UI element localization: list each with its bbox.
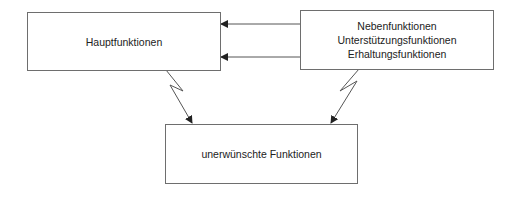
lightning-arrow-main-to-unwanted xyxy=(166,70,192,123)
box-line-erhaltungsfunktionen: Erhaltungsfunktionen xyxy=(348,47,447,61)
box-line-unterstuetzungsfunktionen: Unterstützungsfunktionen xyxy=(337,33,456,47)
box-hauptfunktionen-label: Hauptfunktionen xyxy=(86,35,162,49)
lightning-arrow-secondary-to-unwanted xyxy=(331,69,359,123)
box-unerwuenschte-funktionen-label: unerwünschte Funktionen xyxy=(201,147,321,161)
box-line-nebenfunktionen: Nebenfunktionen xyxy=(357,19,436,33)
box-hauptfunktionen: Hauptfunktionen xyxy=(27,12,221,71)
box-unerwuenschte-funktionen: unerwünschte Funktionen xyxy=(165,124,358,184)
box-nebenfunktionen: Nebenfunktionen Unterstützungsfunktionen… xyxy=(300,10,494,70)
